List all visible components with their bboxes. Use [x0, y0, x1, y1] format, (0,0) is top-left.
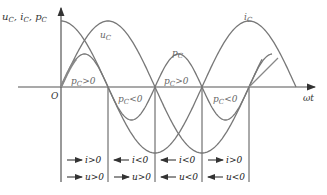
i-sign-label: i>0: [226, 155, 242, 165]
capacitor-waveform-diagram: uC, iC, pC O ωt uC pC iC pC>0 pC<0 pC>0 …: [0, 0, 327, 195]
direction-annotations: i>0u>0i<0u>0i<0u<0i>0u<0: [67, 155, 245, 182]
i-c-label: iC: [244, 12, 253, 24]
u-sign-label: u<0: [179, 172, 198, 182]
pc-negative-1: pC<0: [118, 94, 143, 106]
i-sign-label: i<0: [179, 155, 195, 165]
p-c-label: pC: [172, 48, 184, 60]
i-sign-label: i>0: [85, 155, 101, 165]
y-axis-label: uC, iC, pC: [2, 11, 48, 24]
tangent-line: [249, 58, 278, 87]
u-sign-label: u>0: [132, 172, 151, 182]
pc-positive-2: pC>0: [164, 76, 189, 88]
origin-label: O: [51, 91, 59, 101]
x-axis-label: ωt: [303, 93, 314, 103]
pc-positive-1: pC>0: [71, 76, 96, 88]
u-sign-label: u>0: [85, 172, 104, 182]
i-sign-label: i<0: [132, 155, 148, 165]
pc-negative-2: pC<0: [213, 94, 238, 106]
u-sign-label: u<0: [226, 172, 245, 182]
u-c-label: uC: [100, 30, 112, 42]
